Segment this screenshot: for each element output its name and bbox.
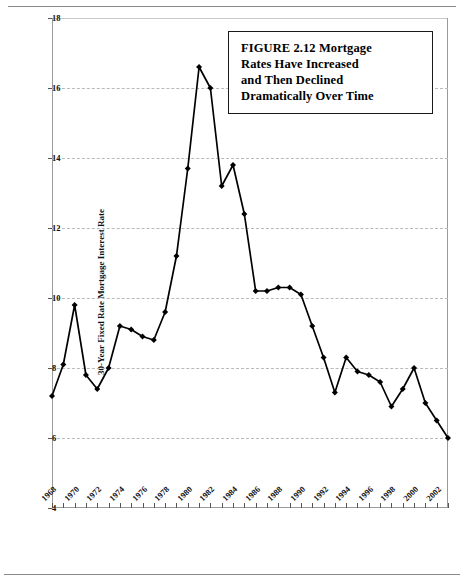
data-point-1992 [321,355,327,361]
data-point-1978 [162,309,168,315]
page-rule-top [8,6,456,7]
data-point-1979 [173,253,179,259]
data-point-1986 [253,288,259,294]
x-tick-mark-2003 [448,503,449,508]
data-point-1985 [241,211,247,217]
figure-title-line-2: Rates Have Increased [241,56,422,72]
data-point-1982 [207,85,213,91]
page-rule-bottom [4,574,460,575]
data-point-1970 [72,302,78,308]
series-polyline [52,67,448,438]
figure-title-line-4: Dramatically Over Time [241,88,422,104]
data-point-1991 [309,323,315,329]
data-point-1973 [106,365,112,371]
data-point-2000 [411,365,417,371]
data-point-1974 [117,323,123,329]
data-point-1980 [185,166,191,172]
data-point-1984 [230,162,236,168]
figure-container: 30-Year Fixed Rate Mortgage Interest Rat… [0,0,464,583]
figure-title-line-1: FIGURE 2.12 Mortgage [241,40,422,56]
data-point-1993 [332,390,338,396]
figure-title-box: FIGURE 2.12 Mortgage Rates Have Increase… [228,31,433,114]
data-point-1977 [151,337,157,343]
figure-title-line-3: and Then Declined [241,72,422,88]
data-point-1987 [264,288,270,294]
data-point-1983 [219,183,225,189]
data-point-1988 [275,285,281,291]
data-point-1969 [60,362,66,368]
data-point-1968 [49,393,55,399]
